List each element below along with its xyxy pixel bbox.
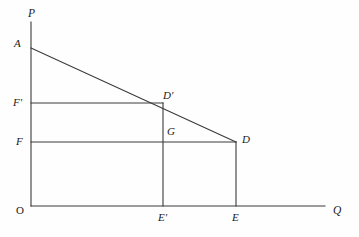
quantity-axis-label: Q (333, 205, 341, 217)
diagram-canvas (0, 0, 359, 237)
origin-label: O (16, 205, 24, 216)
economics-diagram-figure: P Q O A F' F D' G D E' E (0, 0, 359, 237)
point-f-label: F (16, 136, 23, 147)
point-g-label: G (167, 126, 175, 137)
point-d-prime-label: D' (163, 90, 173, 101)
point-f-prime-label: F' (13, 97, 22, 108)
point-e-label: E (232, 212, 239, 223)
demand-curve-line (31, 48, 236, 142)
point-a-label: A (14, 38, 21, 49)
point-d-label: D (242, 134, 250, 145)
point-e-prime-label: E' (158, 212, 167, 223)
price-axis-label: P (28, 8, 35, 20)
